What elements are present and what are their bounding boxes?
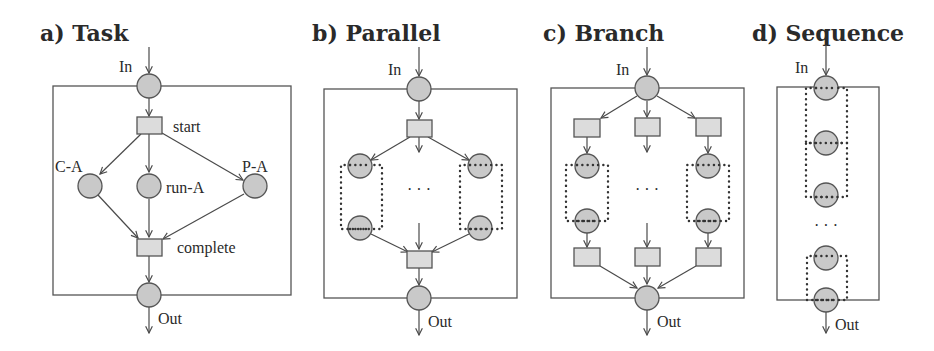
arc-in-left xyxy=(601,96,637,118)
label-pause-a: P-A xyxy=(242,158,268,175)
ellipsis: · · · xyxy=(407,181,431,198)
panel-sequence: d) Sequence In · · · Out xyxy=(752,20,904,333)
label-in: In xyxy=(119,58,132,75)
petri-net-figure: a) Task In start C-A run-A P-A complete … xyxy=(0,0,934,351)
label-in: In xyxy=(388,61,401,78)
transition-mid-end xyxy=(635,248,660,266)
place-cancel-a xyxy=(78,174,102,198)
label-out: Out xyxy=(158,310,183,327)
transition-right-start xyxy=(696,118,721,136)
panel-title-sequence: d) Sequence xyxy=(752,20,904,46)
transition-right-end xyxy=(696,248,721,266)
arc-start-pa xyxy=(162,133,243,180)
label-cancel-a: C-A xyxy=(55,158,83,175)
ellipsis: · · · xyxy=(814,217,838,234)
arc-pa-complete xyxy=(163,194,244,239)
transition-split xyxy=(407,120,432,137)
place-3 xyxy=(814,183,838,207)
transition-left-end xyxy=(574,248,600,266)
panel-title-parallel: b) Parallel xyxy=(312,20,441,46)
panel-title-task: a) Task xyxy=(40,20,129,46)
transition-mid-start xyxy=(635,118,660,136)
label-in: In xyxy=(616,61,629,78)
panel-branch: c) Branch In · · · xyxy=(543,20,744,335)
arc-in-right xyxy=(657,96,695,118)
arc-right-join xyxy=(432,234,469,252)
label-out: Out xyxy=(657,313,682,330)
panel-parallel: b) Parallel In · · · Out xyxy=(312,20,517,335)
ellipsis: · · · xyxy=(635,181,659,198)
place-in xyxy=(407,77,431,101)
place-out xyxy=(635,286,659,310)
transition-left-start xyxy=(574,119,600,137)
arc-ca-complete xyxy=(98,195,138,238)
transition-complete xyxy=(137,239,162,256)
place-out xyxy=(137,283,161,307)
arc-right-out xyxy=(658,266,696,288)
panel-task: a) Task In start C-A run-A P-A complete … xyxy=(40,20,291,333)
panel-title-branch: c) Branch xyxy=(543,20,664,46)
place-in xyxy=(635,76,659,100)
arc-left-out xyxy=(600,266,637,288)
place-out xyxy=(407,286,431,310)
arc-split-left xyxy=(371,137,410,160)
transition-join xyxy=(407,251,432,268)
label-complete: complete xyxy=(177,239,236,257)
label-start: start xyxy=(173,118,201,135)
place-run-a xyxy=(137,174,161,198)
label-out: Out xyxy=(835,316,860,333)
arc-split-right xyxy=(428,137,469,160)
arc-start-ca xyxy=(100,134,141,174)
transition-start xyxy=(137,117,162,134)
place-pause-a xyxy=(243,174,267,198)
place-in xyxy=(137,74,161,98)
label-out: Out xyxy=(428,313,453,330)
place-n-1 xyxy=(814,246,838,270)
label-in: In xyxy=(795,59,808,76)
arc-left-join xyxy=(371,234,408,252)
label-run-a: run-A xyxy=(166,179,205,196)
